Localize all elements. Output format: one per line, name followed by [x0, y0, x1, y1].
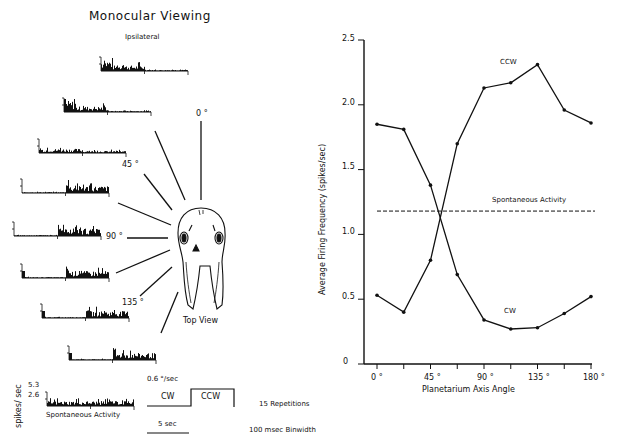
- data-point: [589, 295, 593, 299]
- y-tick-0: 0: [343, 357, 348, 366]
- data-point: [509, 327, 513, 331]
- histogram-panel: [0, 0, 310, 446]
- psth-histogram: [40, 304, 129, 322]
- data-point: [562, 108, 566, 112]
- psth-histogram: [45, 392, 134, 410]
- psth-histogram: [37, 139, 126, 157]
- x-tick-135: 135 °: [528, 373, 550, 382]
- psth-histogram: [62, 98, 151, 116]
- spontaneous-line-label: Spontaneous Activity: [492, 196, 566, 204]
- data-point: [482, 86, 486, 90]
- x-tick-45: 45 °: [424, 373, 441, 382]
- data-point: [509, 81, 513, 85]
- head-top-view-icon: [178, 208, 225, 309]
- data-point: [429, 259, 433, 263]
- cw-series-line: [377, 124, 591, 329]
- angle-rays: [116, 121, 201, 333]
- psth-histogram: [20, 179, 109, 197]
- y-axis-title: Average Firing Frequency (spikes/sec): [318, 144, 327, 295]
- y-tick-1-5: 1.5: [342, 162, 355, 171]
- data-point: [536, 63, 540, 67]
- psth-histogram: [99, 57, 188, 75]
- y-tick-1-0: 1.0: [342, 227, 355, 236]
- data-point: [562, 312, 566, 316]
- ccw-series-line: [377, 65, 591, 313]
- x-tick-0: 0 °: [371, 373, 383, 382]
- data-point: [402, 310, 406, 314]
- data-point: [482, 318, 486, 322]
- data-point: [536, 326, 540, 330]
- y-tick-2-0: 2.0: [342, 98, 355, 107]
- data-point: [429, 183, 433, 187]
- x-tick-180: 180 °: [583, 373, 605, 382]
- psth-histogram: [12, 222, 101, 240]
- y-tick-2-5: 2.5: [342, 34, 355, 43]
- data-point: [375, 122, 379, 126]
- data-point: [375, 294, 379, 298]
- data-point: [455, 142, 459, 146]
- data-point: [589, 121, 593, 125]
- stimulus-trace: [147, 389, 234, 433]
- cw-series-label: CW: [504, 307, 516, 315]
- ccw-series-label: CCW: [500, 58, 517, 66]
- x-tick-90: 90 °: [477, 373, 494, 382]
- psth-histogram: [67, 346, 156, 364]
- y-tick-0-5: 0.5: [342, 292, 355, 301]
- x-axis-title: Planetarium Axis Angle: [422, 385, 515, 394]
- data-point: [402, 128, 406, 132]
- data-point: [455, 273, 459, 277]
- psth-histogram: [20, 264, 109, 282]
